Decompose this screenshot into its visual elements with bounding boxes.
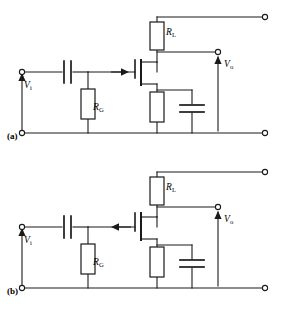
output-ground-terminal-b [262,285,267,290]
circuit-figure: RL RG Vi Vo (a) [0,0,283,310]
gate-resistor-label-a: RG [93,103,104,113]
source-resistor-a [150,92,164,122]
gate-resistor-label-b: RG [93,258,104,268]
load-resistor-b [150,177,164,205]
gate-arrow-head-b [111,223,119,231]
output-voltage-label-b: Vo [224,215,233,225]
schematic-b [0,155,283,310]
source-resistor-b [150,247,164,277]
output-voltage-label-a: Vo [224,60,233,70]
input-voltage-label-b: Vi [24,236,32,246]
input-voltage-label-a: Vi [24,81,32,91]
output-terminal-a [215,49,220,54]
input-ground-terminal-a [19,130,24,135]
load-resistor-label-a: RL [166,28,176,38]
circuit-panel-a: RL RG Vi Vo (a) [0,0,283,155]
vo-arrow-head-b [214,211,221,219]
panel-caption-b: (b) [7,286,18,296]
supply-terminal-a [262,14,267,19]
load-resistor-label-b: RL [166,183,176,193]
panel-caption-a: (a) [7,131,18,141]
gate-arrow-head-a [121,68,129,76]
supply-terminal-b [262,169,267,174]
output-ground-terminal-a [262,130,267,135]
input-terminal-b [19,224,24,229]
vo-arrow-head-a [214,56,221,64]
input-ground-terminal-b [19,285,24,290]
schematic-a [0,0,283,155]
input-terminal-a [19,69,24,74]
output-terminal-b [215,204,220,209]
circuit-panel-b: RL RG Vi Vo (b) [0,155,283,310]
load-resistor-a [150,22,164,50]
